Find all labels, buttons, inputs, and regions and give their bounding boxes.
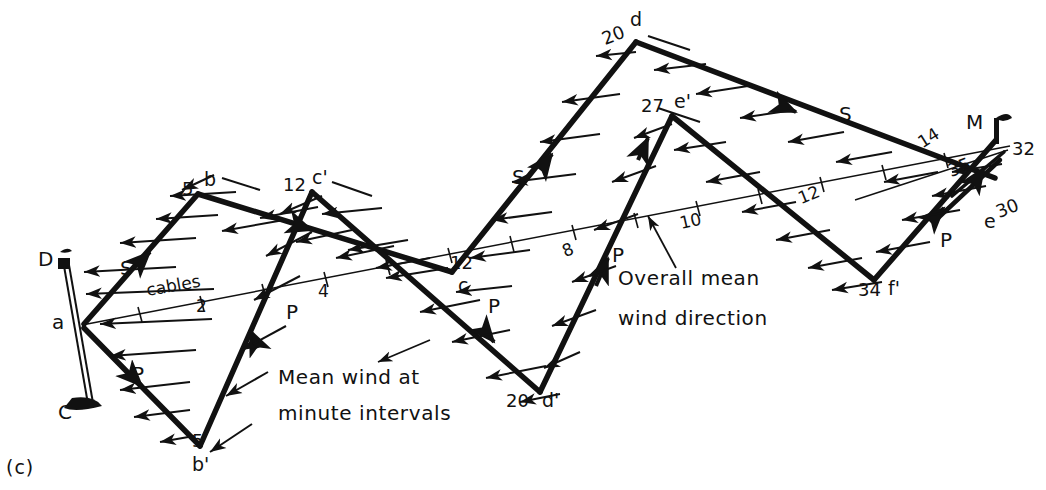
annotation-mean-wind-line1: Mean wind at: [278, 367, 420, 387]
anchor-label-D: D: [38, 249, 53, 269]
vertex-num-e-prime: 27: [641, 97, 664, 115]
vertex-label-e: e: [984, 212, 996, 231]
wind-track-polyline: [84, 42, 1004, 446]
segment-letter-P-dprime-e: P: [612, 245, 624, 265]
vertex-num-f: 32: [1012, 140, 1035, 158]
vertex-label-d-prime: d': [542, 391, 559, 410]
anchor-label-M: M: [966, 112, 983, 132]
M-marker-flag: [994, 114, 1012, 144]
figure-label: (c): [6, 458, 34, 477]
vertex-num-f-prime: 34: [858, 281, 881, 299]
anchor-label-a: a: [52, 312, 64, 332]
figure-panel: D C M a cables 2 4 8 10 12 14 5 b 5 b' 1…: [0, 0, 1046, 490]
annotation-mean-wind-line2: minute intervals: [278, 403, 451, 423]
track-direction-arrows: [128, 106, 984, 386]
vertex-label-c: c: [458, 276, 468, 295]
scale-tick-10: 10: [678, 211, 703, 232]
annotation-overall-mean-line2: wind direction: [618, 308, 768, 328]
vertex-label-d: d: [630, 10, 642, 29]
segment-letter-S-d-right: S: [839, 104, 852, 124]
vertex-label-b-prime: b': [192, 455, 209, 474]
segment-letter-P-f-right: P: [940, 230, 952, 250]
segment-letter-S-a-b: S: [120, 258, 133, 278]
mast-cable-D-C: [58, 249, 102, 410]
vertex-label-e-prime: e': [674, 92, 691, 111]
segment-letter-P-a-bprime: P: [132, 364, 144, 384]
scale-tick-2: 2: [196, 298, 207, 315]
overall-mean-leader: [648, 216, 676, 268]
anchor-label-C: C: [58, 402, 72, 422]
vertex-num-d-prime: 20: [506, 392, 529, 410]
segment-letter-P-bprime-c: P: [286, 302, 298, 322]
vertex-label-b: b: [204, 170, 216, 189]
vertex-label-f-prime: f': [888, 279, 900, 298]
vertex-label-c-prime: c': [312, 168, 328, 187]
vertex-num-b-prime: 5: [192, 432, 203, 450]
annotation-overall-mean-line1: Overall mean: [618, 268, 760, 288]
scale-tick-4: 4: [318, 283, 329, 300]
segment-letter-P-c-dprime: P: [488, 296, 500, 316]
vertex-num-c: 12: [450, 254, 473, 272]
vertex-num-b: 5: [182, 180, 193, 198]
mean-wind-leader: [378, 340, 430, 362]
segment-letter-S-c-d: S: [512, 167, 525, 187]
vector-diagram-svg: [0, 0, 1046, 490]
vertex-num-c-prime: 12: [283, 176, 306, 194]
